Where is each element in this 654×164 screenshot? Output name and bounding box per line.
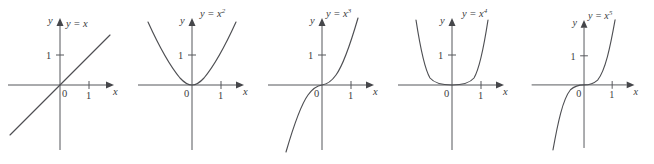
y-axis-label: y (179, 15, 185, 26)
y-axis-tick-label-one: 1 (438, 50, 443, 61)
x-axis-tick-label-one: 1 (218, 90, 223, 101)
curve-equation-base: y = x (65, 18, 88, 29)
x-axis-tick-label-one: 1 (348, 90, 353, 101)
curve-equation-base: y = x (325, 8, 348, 19)
y-axis-tick-label-one: 1 (46, 50, 51, 61)
y-axis-arrow-icon (57, 18, 64, 26)
curve-equation-exponent: 3 (347, 7, 352, 15)
curve-equation-base: y = x (199, 8, 222, 19)
curve-equation-base: y = x (587, 10, 609, 21)
x-axis-tick-label-one: 1 (478, 90, 483, 101)
origin-label: 0 (314, 88, 319, 99)
curve-equation-label: y = x (65, 18, 88, 29)
y-axis-label: y (571, 17, 577, 28)
curve-equation-label: y = x3 (325, 7, 352, 19)
y-axis-tick-label-one: 1 (308, 50, 313, 61)
curve-equation-base: y = x (461, 8, 484, 19)
y-axis-arrow-icon (189, 18, 196, 26)
origin-label: 0 (184, 88, 189, 99)
graph-panel-quartic: x y 0 1 1 y = x4 (390, 0, 520, 164)
y-axis-tick-label-one: 1 (570, 51, 575, 62)
x-axis-label: x (633, 86, 639, 97)
graph-panel-cubic: x y 0 1 1 y = x3 (260, 0, 390, 164)
y-axis-label: y (439, 15, 445, 26)
curve-equation-exponent: 4 (484, 7, 488, 15)
x-axis-label: x (242, 86, 248, 97)
y-axis-arrow-icon (319, 18, 326, 26)
curve-equation-label: y = x5 (587, 9, 613, 21)
x-axis-label: x (112, 86, 118, 97)
origin-label: 0 (444, 88, 449, 99)
y-axis-label: y (309, 15, 315, 26)
curve-equation-label: y = x4 (461, 7, 488, 19)
y-axis-tick-label-one: 1 (178, 50, 183, 61)
x-axis-tick-label-one: 1 (609, 89, 614, 100)
y-axis-arrow-icon (449, 18, 456, 26)
x-axis-label: x (372, 86, 378, 97)
y-axis-label: y (47, 15, 53, 26)
x-axis-tick-label-one: 1 (86, 90, 91, 101)
curve-equation-exponent: 5 (609, 9, 613, 16)
curve-equation-label: y = x2 (199, 7, 226, 19)
origin-label: 0 (62, 88, 67, 99)
curve-equation-exponent: 2 (222, 7, 226, 15)
graph-panel-linear: x y 0 1 1 y = x (0, 0, 130, 164)
graph-panel-quadratic: x y 0 1 1 y = x2 (130, 0, 260, 164)
power-function-figure-strip: x y 0 1 1 y = x x y 0 1 1 y = x2 (0, 0, 654, 164)
origin-label: 0 (576, 88, 581, 99)
graph-panel-quintic: x y 0 1 1 y = x5 (520, 0, 650, 164)
y-axis-arrow-icon (581, 20, 588, 28)
x-axis-label: x (502, 86, 508, 97)
